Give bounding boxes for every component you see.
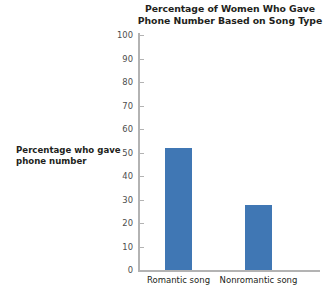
chart-title: Percentage of Women Who Gave Phone Numbe…	[134, 3, 326, 26]
bar-nonromantic-song[interactable]	[245, 205, 272, 270]
tick-mark	[140, 223, 144, 224]
bar-romantic-song[interactable]	[165, 148, 192, 270]
y-tick-label: 90	[122, 54, 133, 64]
y-axis-label: Percentage who gave phone number	[16, 145, 128, 168]
x-axis-line	[138, 270, 320, 272]
y-tick-label: 30	[122, 195, 133, 205]
tick-mark	[140, 176, 144, 177]
plot-area: 100 90 80 70 60 50 40 30 20 10 0	[138, 33, 320, 272]
y-tick-label: 70	[122, 101, 133, 111]
y-tick-label: 40	[122, 171, 133, 181]
y-tick-label: 0	[128, 265, 133, 275]
tick-mark	[140, 35, 144, 36]
y-tick-label: 10	[122, 242, 133, 252]
tick-mark	[140, 247, 144, 248]
y-tick-label: 80	[122, 77, 133, 87]
x-tick-label-romantic-song: Romantic song	[147, 275, 210, 285]
tick-mark	[140, 82, 144, 83]
tick-mark	[140, 200, 144, 201]
y-tick-label: 60	[122, 124, 133, 134]
tick-mark	[140, 59, 144, 60]
y-tick-label: 20	[122, 218, 133, 228]
tick-mark	[140, 106, 144, 107]
tick-mark	[140, 270, 144, 271]
y-tick-label: 50	[122, 148, 133, 158]
y-tick-label: 100	[117, 30, 133, 40]
tick-mark	[140, 129, 144, 130]
x-tick-label-nonromantic-song: Nonromantic song	[220, 275, 298, 285]
tick-mark	[140, 153, 144, 154]
